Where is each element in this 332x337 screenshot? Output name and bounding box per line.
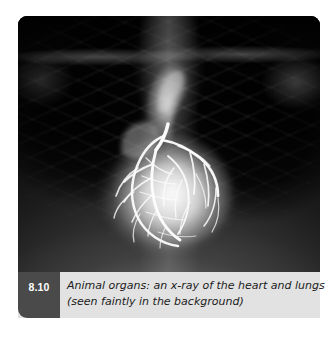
figure-number-label: 8.10 <box>18 281 60 293</box>
figure-number-badge: 8.10 <box>18 272 60 318</box>
caption-line-1: Animal organs: an x-ray of the heart and… <box>67 278 314 294</box>
figure-caption-text: Animal organs: an x-ray of the heart and… <box>67 278 314 309</box>
figure-caption-bar: 8.10 Animal organs: an x-ray of the hear… <box>18 272 320 318</box>
figure-8-10: 8.10 Animal organs: an x-ray of the hear… <box>0 0 332 337</box>
caption-line-2: (seen faintly in the background) <box>67 294 314 310</box>
heart-and-coronary-vessels <box>18 16 320 272</box>
xray-image <box>18 16 320 272</box>
